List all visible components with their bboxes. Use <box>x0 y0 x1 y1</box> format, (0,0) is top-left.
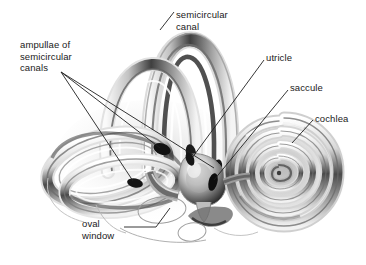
label-cochlea: cochlea <box>315 113 348 125</box>
label-saccule: saccule <box>290 82 323 94</box>
label-ampullae-of-semicircular-canals: ampullae of semicircular canals <box>20 39 72 74</box>
label-oval-window: oval window <box>82 218 114 241</box>
label-utricle: utricle <box>266 52 292 64</box>
cochlea <box>228 118 340 226</box>
label-semicircular-canal: semicircular canal <box>176 9 228 32</box>
